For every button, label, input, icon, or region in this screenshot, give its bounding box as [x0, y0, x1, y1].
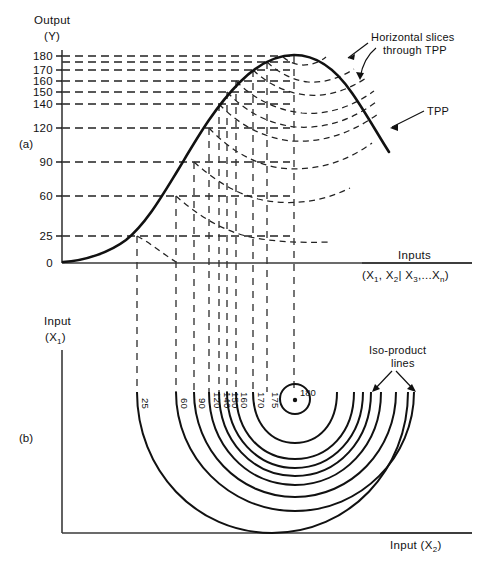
- x-title-p1: (X: [362, 269, 374, 281]
- x-title-p5: ,...X: [418, 269, 440, 281]
- panel-a-ytick-label-120: 120: [33, 122, 53, 134]
- panel-b-x-axis-title: Input (X2): [390, 539, 442, 554]
- panel-b-x-title-p2: ): [437, 539, 441, 551]
- figure-container: Output (Y): [0, 0, 478, 574]
- panel-a: Output (Y): [19, 14, 472, 392]
- panel-b-peak-point: [293, 398, 297, 402]
- panel-b-y-axis-title-line1: Input: [44, 315, 72, 327]
- contour-label-120: 120: [212, 392, 223, 408]
- panel-b-y-title-p2: ): [62, 331, 66, 343]
- annotation-tpp-leader: [392, 111, 424, 127]
- annotation-slices-arrowhead-2: [356, 72, 364, 80]
- x-title-p2: , X: [379, 269, 394, 281]
- panel-a-slice-curves: [137, 57, 378, 262]
- annotation-horizontal-slices-line2: through TPP: [383, 44, 447, 56]
- contour-label-90: 90: [197, 398, 208, 409]
- panel-a-ytick-label-150: 150: [33, 86, 53, 98]
- contour-label-175: 175: [270, 392, 281, 408]
- panel-b-y-axis-title-line2: (X1): [45, 331, 66, 346]
- panel-a-ytick-label-180: 180: [33, 50, 53, 62]
- x-title-p4: X: [402, 269, 413, 281]
- crosspanel-vertical-connectors: [137, 56, 294, 392]
- panel-b-peak-label: 180: [300, 387, 316, 398]
- panel-a-x-axis-title-line2: (X1, X2| X3,...Xn): [362, 269, 449, 284]
- slice-curve-25: [137, 236, 176, 262]
- tpp-curve: [63, 55, 389, 262]
- panel-a-ytick-label-140: 140: [33, 98, 53, 110]
- annotation-iso-arrowhead-right: [407, 384, 416, 392]
- contour-label-25: 25: [140, 398, 151, 409]
- annotation-horizontal-slices-line1: Horizontal slices: [371, 31, 455, 43]
- panel-a-label: (a): [19, 138, 33, 150]
- panel-b-label: (b): [19, 432, 33, 444]
- annotation-iso-product-line2: lines: [391, 357, 415, 369]
- panel-a-ytick-label-0: 0: [46, 257, 53, 269]
- figure-svg: Output (Y): [0, 0, 478, 574]
- contour-label-160: 160: [239, 392, 250, 408]
- annotation-slices-arrow-1: [348, 43, 368, 58]
- contour-label-170: 170: [256, 392, 267, 408]
- panel-a-x-axis-title-line1: Inputs: [398, 249, 431, 261]
- annotation-tpp-arrowhead: [390, 124, 398, 131]
- panel-a-y-axis-title-line2: (Y): [44, 30, 60, 42]
- panel-a-y-axis-title-line1: Output: [34, 14, 71, 26]
- panel-b: Input (X1) (b): [19, 315, 472, 554]
- panel-a-ytick-label-90: 90: [40, 156, 53, 168]
- slice-curve-140: [219, 104, 378, 141]
- contour-label-60: 60: [179, 398, 190, 409]
- x-title-p6: ): [445, 269, 449, 281]
- annotation-tpp: TPP: [427, 105, 449, 117]
- annotation-iso-product-line1: Iso-product: [369, 344, 426, 356]
- panel-a-y-ticks: [56, 56, 62, 236]
- panel-a-ytick-label-60: 60: [40, 190, 53, 202]
- panel-b-y-title-p1: (X: [45, 331, 57, 343]
- panel-b-x-title-p1: Input (X: [390, 539, 433, 551]
- panel-a-ytick-label-25: 25: [40, 230, 53, 242]
